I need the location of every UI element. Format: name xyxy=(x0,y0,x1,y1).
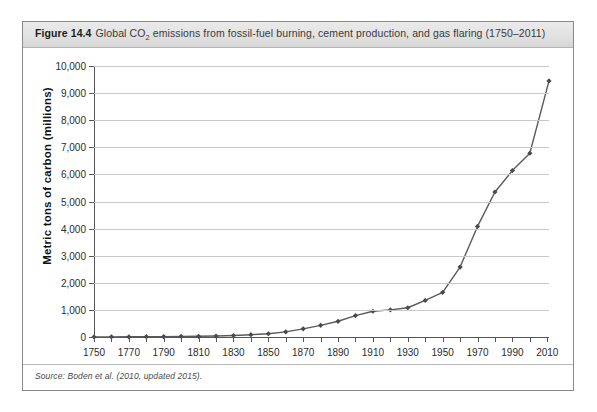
y-tick-label: 7,000 xyxy=(61,142,86,153)
y-tick-mark xyxy=(89,283,94,284)
data-point-marker xyxy=(423,298,428,303)
x-tick-mark xyxy=(181,337,182,342)
y-tick-label: 6,000 xyxy=(61,169,86,180)
x-tick-mark xyxy=(338,337,339,342)
figure-footer: Source: Boden et al. (2010, updated 2015… xyxy=(23,364,573,390)
gridline-horizontal xyxy=(94,174,549,175)
x-tick-mark xyxy=(355,337,356,342)
x-tick-mark xyxy=(303,337,304,342)
x-tick-mark xyxy=(94,337,95,342)
y-tick-label: 3,000 xyxy=(61,250,86,261)
x-tick-mark xyxy=(216,337,217,342)
figure-container: Figure 14.4Global CO2 emissions from fos… xyxy=(22,21,574,391)
data-point-marker xyxy=(546,78,551,83)
x-tick-mark xyxy=(390,337,391,342)
y-tick-mark xyxy=(89,174,94,175)
chart-plot-area: 01,0002,0003,0004,0005,0006,0007,0008,00… xyxy=(94,66,549,337)
y-tick-label: 1,000 xyxy=(61,304,86,315)
x-tick-mark xyxy=(164,337,165,342)
figure-caption-text: Global CO2 emissions from fossil-fuel bu… xyxy=(96,27,546,39)
figure-caption: Figure 14.4Global CO2 emissions from fos… xyxy=(23,27,545,42)
gridline-horizontal xyxy=(94,310,549,311)
x-tick-mark xyxy=(111,337,112,342)
x-tick-label: 1970 xyxy=(466,347,488,358)
y-tick-mark xyxy=(89,147,94,148)
x-tick-mark xyxy=(268,337,269,342)
x-tick-label: 1810 xyxy=(187,347,209,358)
x-tick-mark xyxy=(478,337,479,342)
x-tick-mark xyxy=(547,337,548,342)
data-point-marker xyxy=(353,313,358,318)
x-tick-mark xyxy=(530,337,531,342)
data-point-marker xyxy=(283,329,288,334)
gridline-horizontal xyxy=(94,93,549,94)
gridline-horizontal xyxy=(94,66,549,67)
x-tick-mark xyxy=(373,337,374,342)
data-point-marker xyxy=(335,319,340,324)
y-tick-label: 9,000 xyxy=(61,88,86,99)
gridline-horizontal xyxy=(94,229,549,230)
y-axis-title: Metric tons of carbon (millions) xyxy=(41,56,53,296)
y-tick-label: 0 xyxy=(80,332,86,343)
caption-part-1: Global CO xyxy=(96,27,146,39)
x-tick-mark xyxy=(199,337,200,342)
x-tick-mark xyxy=(251,337,252,342)
x-tick-label: 2010 xyxy=(536,347,558,358)
y-tick-mark xyxy=(89,66,94,67)
y-tick-mark xyxy=(89,229,94,230)
y-tick-mark xyxy=(89,256,94,257)
y-tick-mark xyxy=(89,202,94,203)
y-tick-label: 2,000 xyxy=(61,277,86,288)
x-tick-mark xyxy=(129,337,130,342)
figure-number-label: Figure 14.4 xyxy=(35,27,92,39)
x-tick-label: 1990 xyxy=(501,347,523,358)
x-tick-label: 1950 xyxy=(432,347,454,358)
gridline-horizontal xyxy=(94,120,549,121)
data-point-marker xyxy=(301,326,306,331)
figure-header: Figure 14.4Global CO2 emissions from fos… xyxy=(23,22,573,48)
x-tick-mark xyxy=(495,337,496,342)
y-tick-mark xyxy=(89,310,94,311)
data-point-marker xyxy=(266,331,271,336)
y-tick-mark xyxy=(89,120,94,121)
x-tick-label: 1870 xyxy=(292,347,314,358)
y-tick-label: 4,000 xyxy=(61,223,86,234)
x-tick-label: 1790 xyxy=(153,347,175,358)
x-tick-label: 1850 xyxy=(257,347,279,358)
plot-region: Metric tons of carbon (millions) 01,0002… xyxy=(23,48,573,366)
source-note: Source: Boden et al. (2010, updated 2015… xyxy=(35,371,202,381)
x-tick-label: 1750 xyxy=(83,347,105,358)
y-tick-label: 10,000 xyxy=(55,61,86,72)
gridline-horizontal xyxy=(94,256,549,257)
x-tick-label: 1770 xyxy=(118,347,140,358)
data-point-marker xyxy=(318,323,323,328)
x-tick-label: 1890 xyxy=(327,347,349,358)
x-tick-mark xyxy=(233,337,234,342)
x-tick-mark xyxy=(286,337,287,342)
y-tick-label: 5,000 xyxy=(61,196,86,207)
gridline-horizontal xyxy=(94,202,549,203)
x-tick-mark xyxy=(443,337,444,342)
x-tick-mark xyxy=(512,337,513,342)
x-tick-mark xyxy=(425,337,426,342)
x-tick-mark xyxy=(146,337,147,342)
y-tick-mark xyxy=(89,93,94,94)
x-tick-label: 1830 xyxy=(222,347,244,358)
x-tick-mark xyxy=(321,337,322,342)
x-tick-mark xyxy=(460,337,461,342)
gridline-horizontal xyxy=(94,283,549,284)
caption-part-2: emissions from fossil-fuel burning, ceme… xyxy=(150,27,546,39)
x-tick-mark xyxy=(408,337,409,342)
series-markers xyxy=(91,78,551,339)
y-tick-label: 8,000 xyxy=(61,115,86,126)
gridline-horizontal xyxy=(94,147,549,148)
x-tick-label: 1930 xyxy=(397,347,419,358)
x-tick-label: 1910 xyxy=(362,347,384,358)
